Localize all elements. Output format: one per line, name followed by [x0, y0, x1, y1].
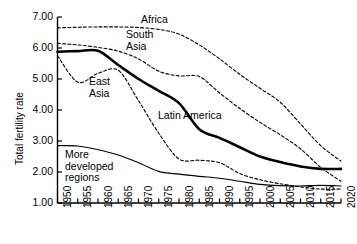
y-tick-label: 2.00 — [8, 165, 53, 177]
x-tick-label: 2005 — [285, 186, 296, 208]
series-label-south-asia-line1: South — [126, 28, 153, 40]
x-tick-label: 1955 — [82, 186, 93, 208]
x-tick-label: 2015 — [325, 186, 336, 208]
y-tick-label: 5.00 — [8, 72, 53, 84]
series-label-east-asia-line2: Asia — [89, 87, 109, 99]
x-tick-label: 2010 — [305, 186, 316, 208]
y-tick-label: 4.00 — [8, 103, 53, 115]
y-tick-label: 1.00 — [8, 196, 53, 208]
x-tick-label: 1995 — [244, 186, 255, 208]
series-label-more-developed-line1: More — [65, 148, 89, 160]
x-tick-label: 1970 — [143, 186, 154, 208]
x-tick-label: 1985 — [204, 186, 215, 208]
x-tick-label: 1965 — [123, 186, 134, 208]
x-tick-label: 1980 — [184, 186, 195, 208]
series-label-more-developed-line3: regions — [65, 171, 99, 183]
series-label-africa: Africa — [141, 14, 168, 26]
x-tick-label: 1960 — [103, 186, 114, 208]
series-label-latin-america: Latin America — [158, 110, 222, 122]
y-tick-label: 3.00 — [8, 134, 53, 146]
series-label-south-asia: South Asia — [126, 29, 153, 52]
series-label-more-developed-line2: developed — [65, 160, 113, 172]
series-label-east-asia-line1: East — [89, 75, 110, 87]
x-tick-label: 1950 — [62, 186, 73, 208]
y-tick-label: 6.00 — [8, 41, 53, 53]
x-tick-label: 1975 — [163, 186, 174, 208]
x-tick-label: 2000 — [265, 186, 276, 208]
series-label-south-asia-line2: Asia — [126, 40, 146, 52]
series-label-more-developed-regions: More developed regions — [65, 149, 113, 184]
x-tick-label: 2020 — [346, 186, 357, 208]
series-label-east-asia: East Asia — [89, 76, 110, 99]
x-tick-label: 1990 — [224, 186, 235, 208]
y-tick-label: 7.00 — [8, 10, 53, 22]
